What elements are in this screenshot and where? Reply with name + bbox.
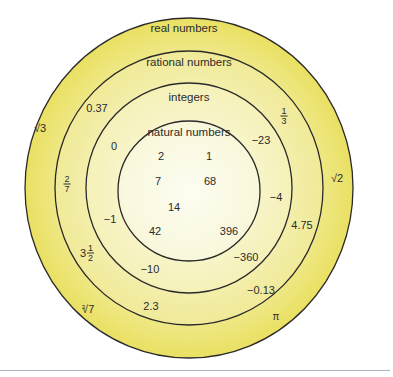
two-sevenths-denominator: 7 <box>64 185 69 194</box>
value-2-3: 2.3 <box>143 301 158 312</box>
value-396: 396 <box>220 226 238 237</box>
value-sqrt3: √3 <box>34 123 46 134</box>
value-2: 2 <box>158 151 164 162</box>
one-third-denominator: 3 <box>281 117 286 126</box>
value-neg-4: −4 <box>270 192 283 203</box>
value-pi: π <box>273 311 280 322</box>
three-half-denominator: 2 <box>88 254 93 263</box>
bottom-divider <box>0 370 390 371</box>
value-three-and-half: 312 <box>80 244 94 263</box>
value-sqrt2: √2 <box>331 173 343 184</box>
value-0-37: 0.37 <box>86 103 107 114</box>
value-cbrt7: 3√7 <box>82 300 95 315</box>
value-neg-23: −23 <box>252 135 271 146</box>
cbrt7-radicand: √7 <box>82 304 94 315</box>
value-neg-0-13: −0.13 <box>247 285 275 296</box>
three-half-whole: 3 <box>80 248 86 259</box>
value-one-third: 13 <box>280 107 287 126</box>
value-42: 42 <box>149 226 161 237</box>
value-14: 14 <box>168 202 180 213</box>
number-sets-diagram: real numbers rational numbers integers n… <box>0 0 393 377</box>
value-68: 68 <box>204 176 216 187</box>
value-1: 1 <box>206 151 212 162</box>
value-neg-10: −10 <box>141 264 160 275</box>
value-neg-1: −1 <box>104 214 117 225</box>
value-0: 0 <box>111 141 117 152</box>
natural-numbers-circle <box>118 121 260 261</box>
value-two-sevenths: 27 <box>63 175 70 194</box>
value-neg-360: −360 <box>234 252 259 263</box>
natural-numbers-label: natural numbers <box>147 127 230 138</box>
value-7: 7 <box>155 176 161 187</box>
rational-numbers-label: rational numbers <box>146 57 232 68</box>
real-numbers-label: real numbers <box>150 23 217 34</box>
integers-label: integers <box>169 92 210 103</box>
value-4-75: 4.75 <box>291 220 312 231</box>
